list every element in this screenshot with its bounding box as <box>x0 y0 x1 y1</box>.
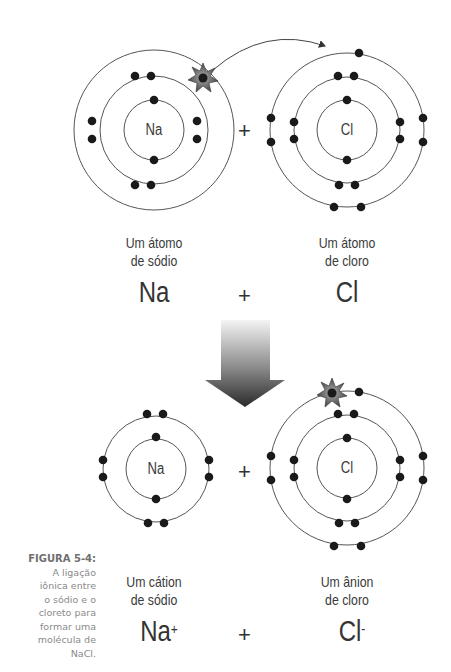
caption-line: molécula de <box>0 633 96 647</box>
chlorine-atom-label: Um átomo de cloro <box>306 234 388 270</box>
charge-superscript: + <box>171 620 178 637</box>
sodium-atom-label: Um átomo de sódio <box>113 234 195 270</box>
plus-sign-bottom-ions: + <box>238 461 251 483</box>
label-line: de sódio <box>113 252 195 270</box>
label-line: Um átomo <box>113 234 195 252</box>
label-line: Um ânion <box>306 573 388 591</box>
chloride-anion-label: Um ânion de cloro <box>306 573 388 609</box>
reaction-down-arrow-icon <box>205 320 285 407</box>
transfer-electron-star-icon <box>188 63 218 92</box>
sodium-cation-label: Um cátion de sódio <box>113 573 195 609</box>
charge-superscript: - <box>361 620 365 637</box>
chlorine-nucleus-symbol-top: Cl <box>331 121 364 139</box>
sodium-cation-formula: Na+ <box>123 615 195 647</box>
formula-symbol: Cl <box>339 614 362 647</box>
electron-transfer-arrow <box>213 39 325 70</box>
caption-line: A ligação <box>0 566 96 580</box>
caption-line: cloreto para <box>0 606 96 620</box>
plus-sign-top-atoms: + <box>238 120 251 142</box>
plus-sign-bottom-formula: + <box>238 624 251 646</box>
sodium-formula-top: Na <box>122 276 186 308</box>
caption-line: formar uma <box>0 620 96 634</box>
chlorine-formula-top: Cl <box>315 276 379 308</box>
label-line: Um cátion <box>113 573 195 591</box>
caption-line: iônica entre <box>0 579 96 593</box>
sodium-nucleus-symbol-top: Na <box>138 121 171 139</box>
label-line: Um átomo <box>306 234 388 252</box>
figure-number: FIGURA 5-4: <box>0 552 96 566</box>
chlorine-nucleus-symbol-bottom: Cl <box>331 459 364 477</box>
chloride-anion-formula: Cl- <box>316 615 388 647</box>
formula-symbol: Na <box>140 614 171 647</box>
sodium-nucleus-symbol-bottom: Na <box>140 460 173 478</box>
figure-caption: FIGURA 5-4: A ligação iônica entre o sód… <box>0 552 96 660</box>
caption-line: o sódio e o <box>0 593 96 607</box>
gained-electron-star-icon <box>317 378 347 407</box>
label-line: de sódio <box>113 591 195 609</box>
label-line: de cloro <box>306 591 388 609</box>
caption-line: NaCl. <box>0 647 96 661</box>
label-line: de cloro <box>306 252 388 270</box>
plus-sign-top-formula: + <box>238 285 251 307</box>
